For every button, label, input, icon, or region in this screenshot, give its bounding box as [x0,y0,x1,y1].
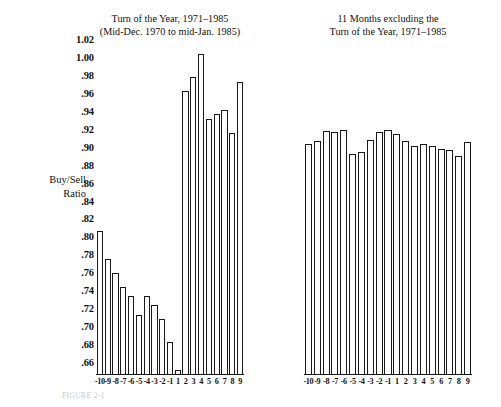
x-axis-line-right [304,374,472,375]
y-axis-tick-p92: .92 [58,125,94,135]
chart-title-right: 11 Months excluding the Turn of the Year… [304,12,472,38]
y-axis-tick-p66: .66 [58,358,94,368]
y-axis-title-line-1: Buy/Sell [8,173,86,187]
y-axis-tick-1p00: 1.00 [58,53,94,63]
bar-6 [438,149,445,375]
bar--2 [376,132,383,375]
y-axis-tick-p68: .68 [58,340,94,350]
y-axis-tick-p72: .72 [58,304,94,314]
bar--1 [167,342,173,375]
bar--4 [358,152,365,375]
bar--5 [136,315,142,375]
y-axis-tick-p96: .96 [58,89,94,99]
bar-4 [198,54,204,375]
bar-5 [206,119,212,375]
bar--10 [305,144,312,375]
chart-title-right-line-1: 11 Months excluding the [304,12,472,25]
y-axis-tick-p88: .88 [58,161,94,171]
bar-series-right [304,40,472,375]
figure-caption: FIGURE 2-1 [62,391,262,400]
x-axis-tick-9: 9 [234,377,246,387]
bar-3 [190,77,196,375]
y-axis-tick-p82: .82 [58,214,94,224]
plot-area-right [304,40,472,375]
y-axis-tick-p74: .74 [58,286,94,296]
bar-8 [455,156,462,375]
x-axis-tick-9: 9 [461,377,474,387]
y-axis-tick-p80: .80 [58,232,94,242]
x-axis-tick-labels-left: -10-9-8-7-6-5-4-3-2-1123456789 [96,377,244,391]
bar-5 [429,146,436,375]
bar--6 [340,130,347,375]
figure-buy-sell-ratio: 1.021.00.98.96.94.92.90.88.86.84.82.80.7… [0,0,501,407]
bar-1 [393,134,400,375]
bar-2 [402,141,409,375]
bar--5 [349,154,356,375]
chart-title-left-line-2: (Mid-Dec. 1970 to mid-Jan. 1985) [96,25,244,38]
bar-3 [411,146,418,375]
chart-title-right-line-2: Turn of the Year, 1971–1985 [304,25,472,38]
y-axis-tick-labels: 1.021.00.98.96.94.92.90.88.86.84.82.80.7… [58,33,94,373]
chart-title-left-line-1: Turn of the Year, 1971–1985 [96,12,244,25]
bar--7 [331,132,338,375]
chart-panel-turn-of-the-year: Turn of the Year, 1971–1985 (Mid-Dec. 19… [96,12,244,384]
bar--7 [120,287,126,375]
y-axis-tick-p76: .76 [58,268,94,278]
bar-8 [229,133,235,375]
bar-6 [214,114,220,375]
bar--10 [97,231,103,375]
y-axis-tick-p94: .94 [58,107,94,117]
bar-7 [446,150,453,375]
y-axis-title: Buy/Sell Ratio [8,173,86,200]
plot-area-left [96,40,244,375]
bar--3 [367,140,374,375]
y-axis-tick-p90: .90 [58,143,94,153]
bar--6 [128,296,134,375]
bar--3 [151,305,157,375]
y-axis-tick-p98: .98 [58,71,94,81]
bar-7 [221,110,227,375]
bar-9 [237,82,243,375]
bar--9 [314,141,321,376]
y-axis-tick-1p02: 1.02 [58,35,94,45]
y-axis-tick-p78: .78 [58,250,94,260]
bar--8 [323,131,330,375]
bar--8 [112,273,118,375]
bar--1 [384,130,391,375]
y-axis-title-line-2: Ratio [8,187,86,201]
bar-series-left [96,40,244,375]
x-axis-line-left [96,374,244,375]
bar-4 [420,144,427,375]
chart-panel-eleven-months: 11 Months excluding the Turn of the Year… [304,12,472,384]
bar-9 [464,142,471,375]
chart-title-left: Turn of the Year, 1971–1985 (Mid-Dec. 19… [96,12,244,38]
x-axis-tick-labels-right: -10-9-8-7-6-5-4-3-2-1123456789 [304,377,472,391]
bar--2 [159,319,165,375]
bar--9 [105,259,111,375]
y-axis-tick-p70: .70 [58,322,94,332]
bar--4 [144,296,150,375]
bar-2 [182,91,188,375]
